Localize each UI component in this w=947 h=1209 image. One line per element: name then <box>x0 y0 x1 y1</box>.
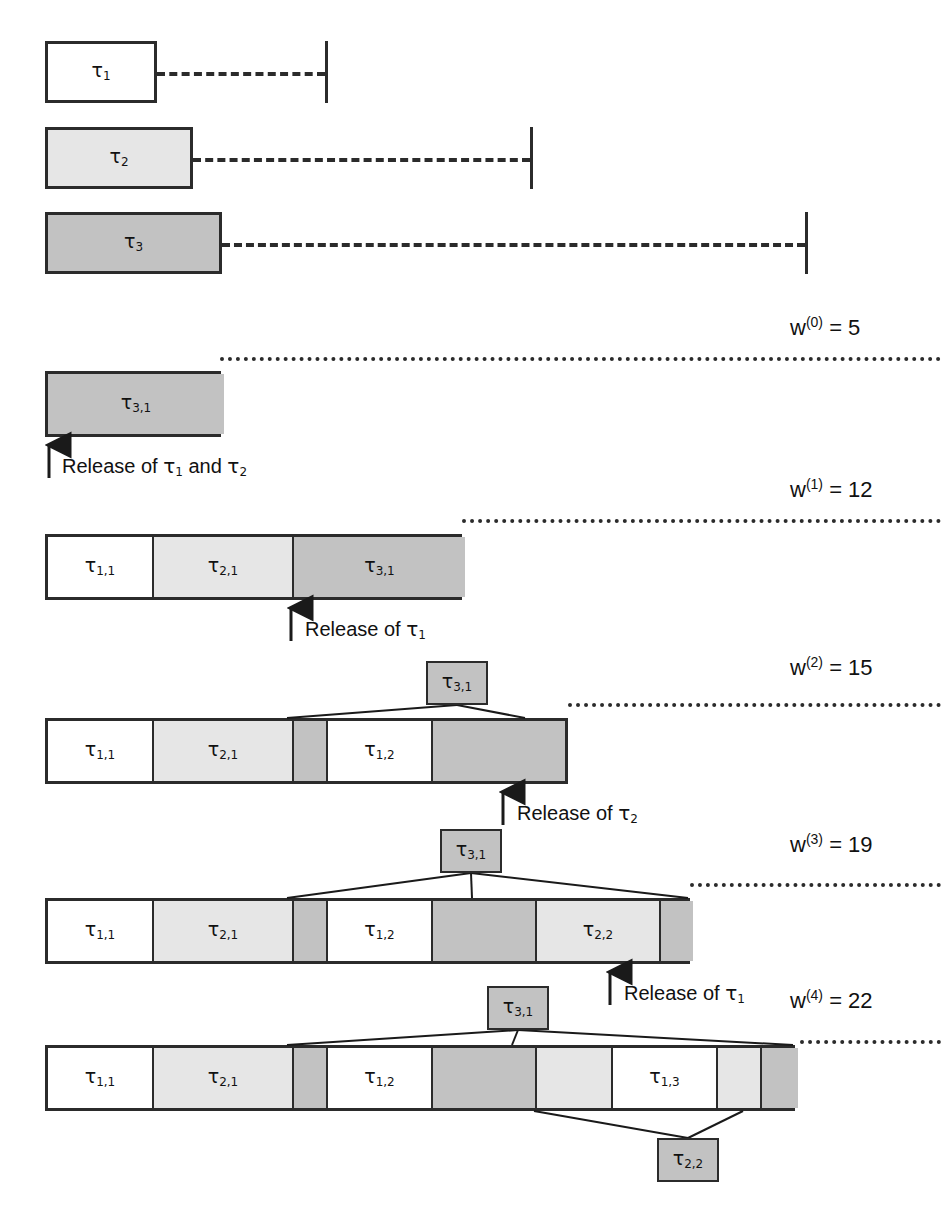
schedule-segment-labeled: τ1,1 <box>48 537 154 597</box>
deadline-marker <box>805 212 808 274</box>
tau-label: τ1,1 <box>85 740 116 761</box>
schedule-segment <box>294 901 328 961</box>
schedule-segment <box>762 1048 798 1108</box>
callout-connector <box>457 705 525 718</box>
deadline-dash-line <box>157 72 325 76</box>
schedule-segment-labeled: τ1,1 <box>48 901 154 961</box>
schedule-row: τ3,1 <box>45 371 221 437</box>
tau-label: τ3 <box>124 232 143 253</box>
w-level-label: w(4) = 22 <box>790 988 873 1014</box>
schedule-segment <box>718 1048 762 1108</box>
w-level-dotted-line <box>800 1040 941 1044</box>
deadline-marker <box>325 41 328 103</box>
tau-label: τ3,1 <box>121 393 152 414</box>
task-bar-tau2: τ2 <box>45 127 193 189</box>
schedule-segment-labeled: τ2,1 <box>154 901 294 961</box>
tau-label: τ1 <box>91 61 110 82</box>
callout-connector <box>287 873 471 898</box>
tau-label: τ1,1 <box>85 920 116 941</box>
schedule-segment-labeled: τ1,2 <box>328 721 433 781</box>
schedule-segment-labeled: τ3,1 <box>294 537 465 597</box>
deadline-dash-line <box>222 243 805 247</box>
release-label: Release of τ1 <box>305 617 426 642</box>
task-bar-tau1: τ1 <box>45 41 157 103</box>
w-level-dotted-line <box>462 519 941 523</box>
release-label: Release of τ1 <box>624 981 745 1006</box>
schedule-segment-labeled: τ2,1 <box>154 721 294 781</box>
callout-connector <box>287 1030 518 1045</box>
release-label: Release of τ1 and τ2 <box>62 454 247 479</box>
schedule-segment-labeled: τ2,1 <box>154 1048 294 1108</box>
tau-label: τ2 <box>109 147 128 168</box>
tau-label: τ1,1 <box>85 1067 116 1088</box>
w-level-label: w(2) = 15 <box>790 655 873 681</box>
schedule-segment-labeled: τ1,2 <box>328 901 433 961</box>
deadline-marker <box>530 127 533 189</box>
tau-label: τ2,1 <box>208 740 239 761</box>
schedule-row: τ1,1τ2,1τ1,2τ1,3 <box>45 1045 795 1111</box>
figure-canvas: τ1τ2τ3 w(0) = 5τ3,1Release of τ1 and τ2w… <box>0 0 947 1209</box>
schedule-row: τ1,1τ2,1τ1,2τ2,2 <box>45 898 690 964</box>
w-level-label: w(3) = 19 <box>790 832 873 858</box>
tau-label: τ3,1 <box>456 840 487 861</box>
schedule-row: τ1,1τ2,1τ1,2 <box>45 718 568 784</box>
release-label: Release of τ2 <box>517 801 638 826</box>
schedule-segment <box>537 1048 613 1108</box>
schedule-row: τ1,1τ2,1τ3,1 <box>45 534 462 600</box>
tau-label: τ1,2 <box>364 740 395 761</box>
schedule-segment-labeled: τ1,1 <box>48 721 154 781</box>
tau-label: τ2,2 <box>673 1149 704 1170</box>
schedule-segment-labeled: τ2,2 <box>537 901 661 961</box>
task-bar-tau3: τ3 <box>45 212 222 274</box>
tau-label: τ3,1 <box>364 556 395 577</box>
callout-connector <box>534 1111 688 1138</box>
schedule-segment <box>294 721 328 781</box>
callout-connector <box>471 873 472 898</box>
tau-label: τ1,3 <box>649 1067 680 1088</box>
schedule-segment <box>433 721 565 781</box>
w-level-label: w(1) = 12 <box>790 477 873 503</box>
schedule-segment-labeled: τ1,2 <box>328 1048 433 1108</box>
tau-label: τ1,2 <box>364 920 395 941</box>
callout-connector <box>518 1030 793 1045</box>
tau-label: τ2,1 <box>208 920 239 941</box>
callout-box-above: τ3,1 <box>440 829 502 873</box>
tau-label: τ2,1 <box>208 556 239 577</box>
callout-connector <box>688 1111 743 1138</box>
tau-label: τ1,2 <box>364 1067 395 1088</box>
tau-label: τ1,1 <box>85 556 116 577</box>
callout-box-above: τ3,1 <box>487 986 549 1030</box>
schedule-segment-labeled: τ2,1 <box>154 537 294 597</box>
callout-connector <box>471 873 688 898</box>
tau-label: τ2,2 <box>583 920 614 941</box>
schedule-segment <box>433 901 537 961</box>
tau-label: τ3,1 <box>442 672 473 693</box>
w-level-dotted-line <box>220 357 941 361</box>
w-level-label: w(0) = 5 <box>790 315 860 341</box>
callout-connector <box>512 1030 518 1045</box>
schedule-segment-labeled: τ1,1 <box>48 1048 154 1108</box>
callout-box-below: τ2,2 <box>657 1138 719 1182</box>
w-level-dotted-line <box>690 883 941 887</box>
schedule-segment <box>661 901 693 961</box>
w-level-dotted-line <box>568 703 941 707</box>
callout-box-above: τ3,1 <box>426 661 488 705</box>
tau-label: τ3,1 <box>503 997 534 1018</box>
tau-label: τ2,1 <box>208 1067 239 1088</box>
schedule-segment-labeled: τ3,1 <box>48 374 224 434</box>
schedule-segment-labeled: τ1,3 <box>613 1048 718 1108</box>
callout-connector <box>287 705 457 718</box>
schedule-segment <box>433 1048 537 1108</box>
deadline-dash-line <box>193 158 530 162</box>
schedule-segment <box>294 1048 328 1108</box>
